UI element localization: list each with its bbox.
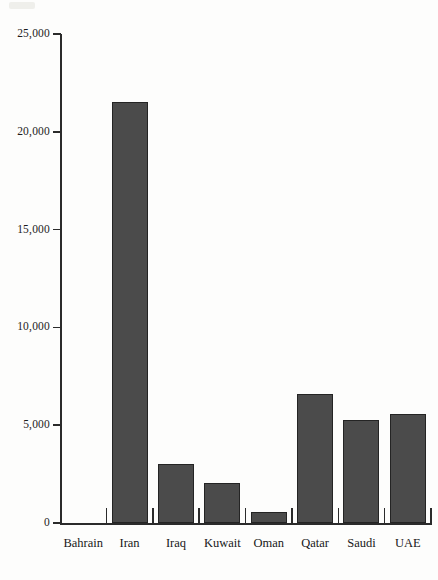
- y-tick-label: 25,000: [0, 28, 50, 40]
- x-label-iraq: Iraq: [153, 537, 199, 550]
- bar-iran: [112, 102, 148, 523]
- plot-area: [60, 34, 431, 523]
- y-tick-label-text: 25,000: [2, 28, 50, 40]
- y-tick-label: 20,000: [0, 126, 50, 138]
- y-tick-label-text: 5,000: [2, 419, 50, 431]
- y-tick-label-text: 20,000: [2, 126, 50, 138]
- x-label-saudi: Saudi: [338, 537, 384, 550]
- chart-page: 05,00010,00015,00020,00025,000 BahrainIr…: [0, 0, 438, 580]
- bar-saudi: [343, 420, 379, 523]
- scan-artifact: [9, 2, 35, 9]
- y-tick-label: 0: [0, 517, 50, 529]
- y-tick-label-text: 0: [2, 517, 50, 529]
- bar-qatar: [297, 394, 333, 523]
- y-tick-label-text: 15,000: [2, 224, 50, 236]
- bar-iraq: [158, 464, 194, 523]
- y-tick-label: 10,000: [0, 321, 50, 333]
- bar-oman: [251, 512, 287, 523]
- y-tick-label: 5,000: [0, 419, 50, 431]
- bar-kuwait: [204, 483, 240, 523]
- x-label-oman: Oman: [246, 537, 292, 550]
- bar-uae: [390, 414, 426, 523]
- x-axis-line: [60, 523, 432, 525]
- x-label-qatar: Qatar: [292, 537, 338, 550]
- x-label-iran: Iran: [106, 537, 152, 550]
- x-label-bahrain: Bahrain: [60, 537, 106, 550]
- x-label-uae: UAE: [385, 537, 431, 550]
- x-label-kuwait: Kuwait: [199, 537, 245, 550]
- y-tick-label: 15,000: [0, 224, 50, 236]
- y-tick-label-text: 10,000: [2, 321, 50, 333]
